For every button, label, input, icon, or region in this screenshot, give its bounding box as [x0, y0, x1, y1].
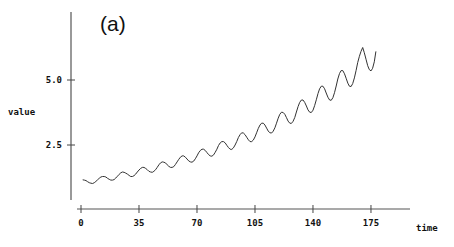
- x-tick-label: 105: [247, 218, 263, 228]
- series-line: [83, 48, 376, 184]
- y-axis-label: value: [8, 107, 36, 117]
- y-tick-label: 2.5: [46, 140, 62, 150]
- y-tick-label: 5.0: [46, 75, 62, 85]
- x-tick-label: 0: [78, 218, 83, 228]
- x-axis-label: time: [416, 223, 438, 233]
- x-tick-label: 35: [134, 218, 145, 228]
- x-tick-label: 140: [305, 218, 321, 228]
- time-series-chart: (a) 2.55.0 03570105140175 value time: [0, 0, 454, 247]
- panel-label: (a): [100, 12, 126, 35]
- x-tick-label: 175: [363, 218, 379, 228]
- x-tick-label: 70: [192, 218, 203, 228]
